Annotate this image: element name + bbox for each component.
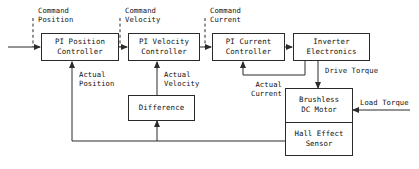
label-line1: Command [210, 6, 241, 15]
label-load-torque: Load Torque [360, 98, 409, 107]
label-actual-velocity: Actual Velocity [164, 70, 199, 89]
block-label-line2: Controller [141, 47, 187, 57]
label-line2: Velocity [125, 15, 160, 24]
block-label-line1: Brushless [299, 95, 339, 105]
label-command-velocity: Command Velocity [125, 6, 160, 25]
label-line1: Actual [79, 70, 114, 79]
block-difference[interactable]: Difference [128, 95, 195, 121]
label-drive-torque: Drive Torque [325, 66, 378, 75]
label-line1: Drive Torque [325, 66, 378, 75]
block-label-line2: Sensor [306, 139, 333, 149]
label-line1: Actual [164, 70, 199, 79]
connector-layer [0, 0, 419, 169]
block-label-line1: Difference [139, 103, 185, 113]
block-label-line1: PI Velocity [139, 37, 189, 47]
block-diagram-canvas: PI Position Controller PI Velocity Contr… [0, 0, 419, 169]
block-label-line2: Electronics [306, 47, 356, 57]
label-line2: Position [38, 15, 73, 24]
actual-current-feedback-line [243, 61, 305, 75]
label-line1: Command [125, 6, 160, 15]
label-line2: Current [210, 15, 241, 24]
label-command-position: Command Position [38, 6, 73, 25]
block-label-line1: PI Current [226, 37, 272, 47]
label-line2: Position [79, 79, 114, 88]
label-line1: Load Torque [360, 98, 409, 107]
block-brushless-dc-motor[interactable]: Brushless DC Motor [286, 89, 352, 122]
label-actual-position: Actual Position [79, 70, 114, 89]
label-line2: Velocity [164, 79, 199, 88]
block-label-line2: DC Motor [301, 105, 337, 115]
label-line2: Current [250, 89, 282, 98]
block-label-line1: PI Position [55, 37, 105, 47]
block-inverter-electronics[interactable]: Inverter Electronics [293, 33, 370, 61]
block-pi-velocity-controller[interactable]: PI Velocity Controller [128, 33, 200, 61]
block-label-line1: Hall Effect [295, 129, 344, 139]
label-actual-current: Actual Current [250, 80, 282, 99]
block-pi-position-controller[interactable]: PI Position Controller [41, 33, 119, 61]
label-line1: Actual [250, 80, 282, 89]
label-line1: Command [38, 6, 73, 15]
label-command-current: Command Current [210, 6, 241, 25]
block-hall-effect-sensor[interactable]: Hall Effect Sensor [286, 122, 352, 156]
block-label-line1: Inverter [313, 37, 349, 47]
block-label-line2: Controller [57, 47, 103, 57]
block-pi-current-controller[interactable]: PI Current Controller [212, 33, 285, 61]
block-motor-stack: Brushless DC Motor Hall Effect Sensor [285, 88, 353, 156]
block-label-line2: Controller [226, 47, 272, 57]
